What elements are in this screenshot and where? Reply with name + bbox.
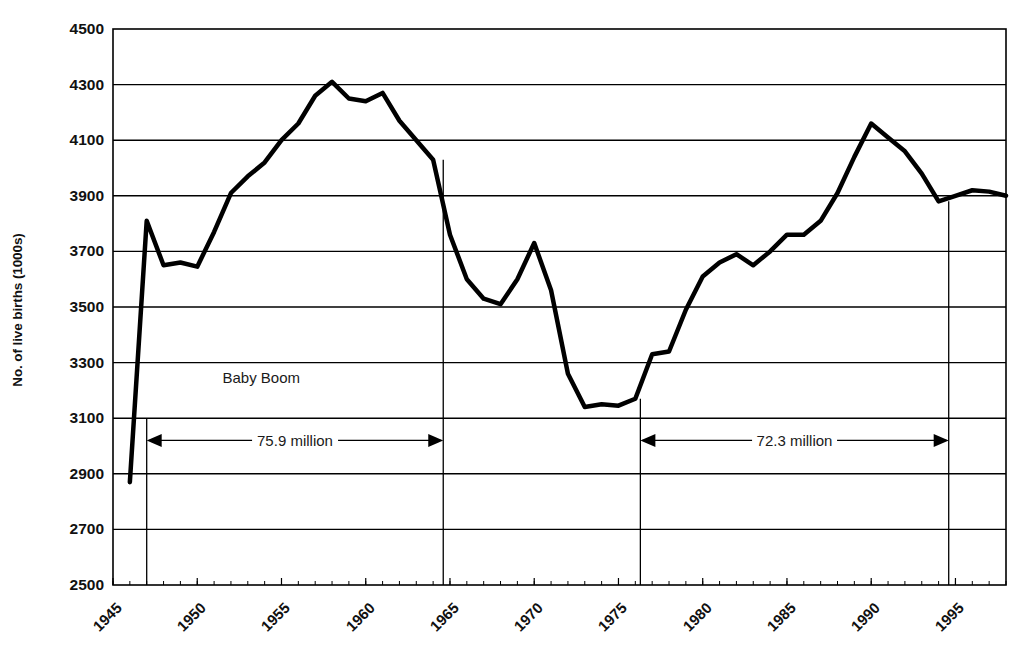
baby-boom-label: Baby Boom: [217, 368, 305, 385]
y-axis-tick-label: 3700: [32, 242, 104, 260]
y-axis-tick-label: 3500: [32, 298, 104, 316]
data-series-line: [130, 82, 1006, 482]
births-line-chart: No. of live births (1000s) 4500430041003…: [0, 0, 1027, 659]
x-axis-major-ticks: [113, 578, 955, 585]
y-axis-tick-label: 4100: [32, 131, 104, 149]
gridlines: [113, 85, 1006, 530]
y-axis-tick-labels: 4500430041003900370035003300310029002700…: [24, 0, 104, 659]
y-axis-tick-label: 3300: [32, 354, 104, 372]
y-axis-title: No. of live births (1000s): [10, 175, 25, 445]
y-axis-tick-label: 2900: [32, 465, 104, 483]
y-axis-tick-label: 3900: [32, 187, 104, 205]
y-axis-tick-label: 2700: [32, 520, 104, 538]
y-axis-tick-label: 4500: [32, 20, 104, 38]
y-axis-tick-label: 2500: [32, 576, 104, 594]
y-axis-tick-label: 3100: [32, 409, 104, 427]
span-annotation-label: 72.3 million: [752, 432, 838, 449]
plot-area: [0, 0, 1027, 659]
span-annotation-label: 75.9 million: [252, 432, 338, 449]
y-axis-tick-label: 4300: [32, 76, 104, 94]
